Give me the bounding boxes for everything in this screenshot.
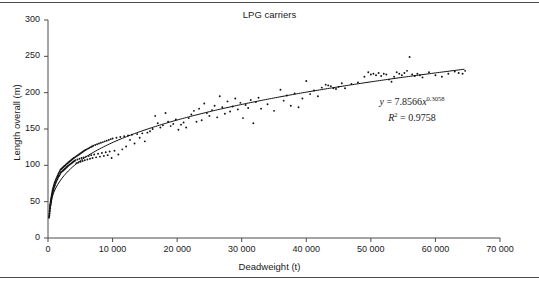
data-point [89,158,91,160]
data-point [372,73,374,75]
data-point [108,139,110,141]
x-axis-title: Deadweight (t) [0,261,539,272]
data-point [76,159,78,161]
data-point [260,108,262,110]
data-point [96,143,98,145]
x-tick-label: 70 000 [470,245,530,254]
x-tick-label: 10 000 [83,245,143,254]
data-point [327,84,329,86]
data-point [363,76,365,78]
data-point [111,157,113,159]
x-tick-label: 50 000 [341,245,401,254]
data-point [239,102,241,104]
data-point [101,152,103,154]
data-point [152,128,154,130]
data-point [396,71,398,73]
data-point [234,98,236,100]
y-axis-title: Length overall (m) [11,53,22,193]
data-point [283,100,285,102]
x-tick-label: 60 000 [405,245,465,254]
data-point [102,141,104,143]
data-point [290,105,292,107]
data-point [214,105,216,107]
data-point [170,125,172,127]
data-point [79,158,81,160]
equation-exponent: 0.3058 [427,95,445,102]
y-tick-label: 50 [0,197,40,206]
data-point [81,157,83,159]
data-point [422,76,424,78]
data-point [280,89,282,91]
data-point [385,74,387,76]
data-point [398,73,400,75]
r-squared-value: = 0.9758 [398,112,436,123]
data-point [367,71,369,73]
data-point [335,88,337,90]
data-point [227,100,229,102]
data-point [104,140,106,142]
data-point [109,151,111,153]
data-point [403,72,405,74]
data-point [317,95,319,97]
data-point [375,74,377,76]
data-point [183,122,185,124]
data-point [409,56,411,58]
data-point [370,74,372,76]
data-point [48,215,50,217]
fit-annotation: y = 7.8566x0.3058 R2 = 0.9758 [352,94,472,126]
data-point [82,160,84,162]
data-point [149,130,151,132]
fit-equation-line: y = 7.8566x0.3058 [352,94,472,110]
data-point [258,97,260,99]
data-point [144,140,146,142]
data-point [165,112,167,114]
x-tick-label: 30 000 [212,245,272,254]
data-point [216,116,218,118]
data-point [203,103,205,105]
data-point [117,153,119,155]
equation-equals-coeff: = 7.8566 [384,96,422,107]
data-point [112,138,114,140]
data-point [441,76,443,78]
data-point [357,82,359,84]
y-tick-label: 0 [0,233,40,242]
data-point [393,76,395,78]
data-point [201,119,203,121]
data-point [330,85,332,87]
data-point [97,153,99,155]
data-point [309,93,311,95]
data-point [250,99,252,101]
data-point [305,80,307,82]
data-point [125,145,127,147]
data-point [247,107,249,109]
data-point [242,117,244,119]
data-point [103,155,105,157]
data-point [172,123,174,125]
data-point [98,143,100,145]
data-point [119,136,121,138]
data-point [458,72,460,74]
data-point [380,75,382,77]
data-point [344,87,346,89]
data-point [237,108,239,110]
data-point [341,82,343,84]
data-point [49,212,51,214]
data-point [464,70,466,72]
data-point [252,122,254,124]
data-point [114,150,116,152]
data-point [301,98,303,100]
data-point [95,156,97,158]
data-point [134,143,136,145]
data-point [434,74,436,76]
data-point [221,106,223,108]
data-point [224,113,226,115]
data-point [49,210,51,212]
data-point [100,142,102,144]
data-point [198,108,200,110]
data-point [159,127,161,129]
data-point [321,87,323,89]
data-point [141,132,143,134]
data-point [157,122,159,124]
data-point [267,103,269,105]
data-point [406,70,408,72]
